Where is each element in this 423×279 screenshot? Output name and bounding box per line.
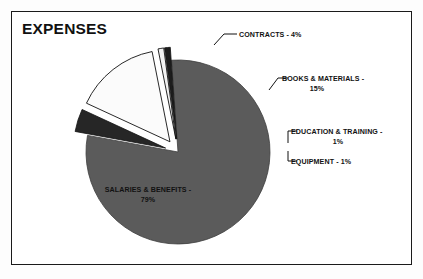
pie-chart-svg: CONTRACTS - 4% BOOKS & MATERIALS - 15% E… <box>11 11 412 265</box>
slice-label-education-training-line2: 1% <box>333 138 344 146</box>
slice-label-salaries-benefits-line1: SALARIES & BENEFITS - <box>105 186 192 194</box>
slice-label-equipment: EQUIPMENT - 1% <box>291 158 352 166</box>
leader-line-contracts <box>214 34 237 45</box>
slice-label-books-materials-line1: BOOKS & MATERIALS - <box>282 75 365 83</box>
slice-label-salaries-benefits-line2: 79% <box>141 196 156 204</box>
expenses-pie-chart-figure: EXPENSES CONTRACTS - 4% BOOKS & MATERIAL… <box>0 0 423 279</box>
slice-label-education-training-line1: EDUCATION & TRAINING - <box>291 128 383 136</box>
slice-label-contracts: CONTRACTS - 4% <box>239 31 302 39</box>
slice-label-books-materials-line2: 15% <box>310 85 325 93</box>
